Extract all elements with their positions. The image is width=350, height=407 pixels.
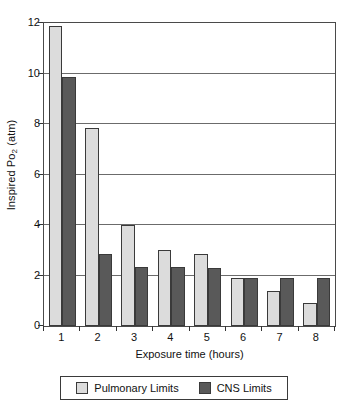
x-axis-title: Exposure time (hours) <box>43 348 336 360</box>
bar-group <box>121 23 148 326</box>
pulmonary-swatch <box>76 382 88 394</box>
legend-label: Pulmonary Limits <box>94 382 178 394</box>
bar-group <box>303 23 330 326</box>
bar-cns <box>99 254 113 326</box>
bar-groups <box>44 23 335 326</box>
y-axis-tick-labels: 024681012 <box>20 0 40 407</box>
bar-cns <box>135 267 149 326</box>
y-axis-title: Inspired Po2 (atm) <box>0 0 22 330</box>
bar-pulmonary <box>267 291 281 326</box>
x-axis-tick-label: 3 <box>124 331 144 343</box>
x-axis-tick-labels: 12345678 <box>43 331 336 347</box>
legend-label: CNS Limits <box>217 382 272 394</box>
legend-entry: Pulmonary Limits <box>76 382 178 394</box>
y-axis-title-subscript: 2 <box>10 149 19 154</box>
bar-pulmonary <box>231 278 245 326</box>
bar-cns <box>208 268 222 326</box>
chart-figure: Inspired Po2 (atm) 024681012 12345678 Ex… <box>0 0 350 407</box>
bar-pulmonary <box>121 225 135 326</box>
y-axis-title-unit: (atm) <box>5 120 17 149</box>
plot-area <box>43 22 336 327</box>
x-axis-tick-label: 6 <box>233 331 253 343</box>
x-axis-tick-label: 1 <box>51 331 71 343</box>
bar-pulmonary <box>303 303 317 326</box>
y-axis-title-base: Inspired Po <box>5 154 17 211</box>
bar-group <box>85 23 112 326</box>
bar-group <box>231 23 258 326</box>
legend-entry: CNS Limits <box>199 382 272 394</box>
bar-cns <box>317 278 331 326</box>
bar-pulmonary <box>194 254 208 326</box>
x-axis-tick-label: 7 <box>269 331 289 343</box>
bar-cns <box>280 278 294 326</box>
x-axis-tick-label: 5 <box>197 331 217 343</box>
bar-pulmonary <box>85 128 99 326</box>
x-axis-tick-label: 2 <box>88 331 108 343</box>
bar-cns <box>171 267 185 326</box>
bar-group <box>158 23 185 326</box>
bar-group <box>267 23 294 326</box>
x-axis-tick-label: 8 <box>306 331 326 343</box>
bar-group <box>194 23 221 326</box>
x-axis-tick-label: 4 <box>160 331 180 343</box>
bar-cns <box>244 278 258 326</box>
bar-pulmonary <box>158 250 172 326</box>
bar-cns <box>62 77 76 326</box>
cns-swatch <box>199 382 211 394</box>
bar-group <box>49 23 76 326</box>
bar-pulmonary <box>49 26 63 326</box>
chart-legend: Pulmonary LimitsCNS Limits <box>60 376 288 400</box>
